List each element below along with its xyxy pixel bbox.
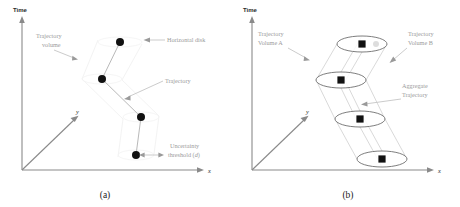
- panel-a-uncertainty-suffix: ): [198, 151, 200, 159]
- panel-b-time-label: Time: [243, 7, 258, 13]
- panel-b-aggregate-label-line2: Trajectory: [402, 91, 428, 98]
- figure-container: Time x y Trajectory volume: [0, 0, 460, 207]
- panel-a-uncertainty-label-line1: Uncertainty: [170, 142, 200, 149]
- panel-a-node-3: [137, 113, 145, 121]
- panel-b: Time x y Traje: [230, 0, 460, 207]
- panel-b-volume-a-leader: [288, 48, 310, 61]
- panel-b-volume-a-label-line1: Trajectory: [258, 30, 284, 37]
- panel-a-time-label: Time: [13, 7, 28, 13]
- panel-b-aggregate-label-line1: Aggregate: [402, 82, 428, 89]
- panel-a-volume-outline: [82, 37, 159, 160]
- panel-b-volume-b-label-line1: Trajectory: [408, 30, 434, 37]
- panel-b-disk-2: [316, 72, 366, 88]
- panel-a-time-axis: [19, 16, 25, 170]
- panel-a-trajectory-volume-leader: [54, 50, 78, 61]
- panel-a-uncertainty-prefix: threshold (: [168, 151, 195, 159]
- panel-a-x-label: x: [207, 167, 211, 174]
- panel-a: Time x y Trajectory volume: [0, 0, 230, 207]
- panel-b-volume-a-label-line2: Volume A: [258, 39, 283, 46]
- panel-a-trajectory-label: Trajectory: [165, 77, 191, 84]
- panel-b-caption: (b): [342, 190, 353, 201]
- panel-a-trajectory-volume-label-line2: volume: [42, 41, 61, 48]
- panel-a-node-4: [132, 151, 140, 159]
- panel-b-y-label: y: [305, 108, 309, 115]
- panel-a-uncertainty-measure-arrow: [139, 153, 164, 158]
- panel-b-volume-b-tube: [341, 36, 407, 159]
- panel-b-volume-a-tube: [316, 44, 382, 167]
- panel-a-trajectory-leader: [124, 81, 163, 100]
- panel-a-trajectory-volume-label-line1: Trajectory: [36, 32, 62, 39]
- panel-b-x-axis: [252, 167, 434, 173]
- panel-a-node-1: [116, 38, 124, 46]
- panel-b-volume-b-label-line2: Volume B: [408, 39, 433, 46]
- panel-b-y-axis: [252, 116, 309, 170]
- panel-b-disk-3: [335, 111, 385, 127]
- panel-b-disk-4: [357, 151, 407, 167]
- panel-b-aggregate-leader: [361, 99, 401, 106]
- panel-a-uncertainty-label-line2: threshold (d): [168, 151, 200, 159]
- panel-b-time-axis: [249, 16, 255, 170]
- panel-b-volume-b-leader: [390, 48, 408, 63]
- panel-a-y-axis: [22, 116, 79, 170]
- panel-a-y-label: y: [75, 108, 79, 115]
- panel-a-x-axis: [22, 167, 204, 173]
- panel-b-x-label: x: [437, 167, 441, 174]
- panel-b-disk-1: [337, 36, 387, 52]
- panel-a-caption: (a): [100, 190, 111, 201]
- panel-a-horizontal-disk-label: Horizontal disk: [167, 36, 206, 43]
- panel-a-horizontal-disk-leader: [144, 37, 166, 42]
- panel-a-node-2: [98, 75, 106, 83]
- panel-a-trajectory-path: [102, 42, 141, 155]
